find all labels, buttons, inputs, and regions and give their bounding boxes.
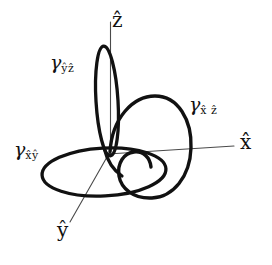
gamma-symbol: γ [14,138,25,160]
gamma-xy-subscript: x̂ŷ [25,149,38,162]
axes-loop-svg [0,0,272,265]
x-axis-label: x̂ [240,132,251,152]
z-hat-glyph: ẑ [112,10,123,30]
gamma-yz-label: γŷẑ [50,53,74,74]
gamma-xz-label: γx̂ ẑ [189,95,217,116]
gamma-symbol: γ [50,51,61,73]
y-hat-glyph: ŷ [57,220,68,240]
y-axis-line [70,150,111,222]
loop-gamma-yz [93,45,122,156]
gamma-xz-subscript: x̂ ẑ [200,104,217,117]
x-hat-glyph: x̂ [240,132,251,152]
axis-lines [70,22,234,222]
gamma-yz-subscript: ŷẑ [61,62,74,75]
gamma-xy-label: γx̂ŷ [14,140,39,161]
z-axis-label: ẑ [112,10,123,30]
gamma-symbol: γ [189,93,200,115]
figure-canvas: x̂ ŷ ẑ γx̂ŷ γŷẑ γx̂ ẑ [0,0,272,265]
y-axis-label: ŷ [57,220,68,240]
